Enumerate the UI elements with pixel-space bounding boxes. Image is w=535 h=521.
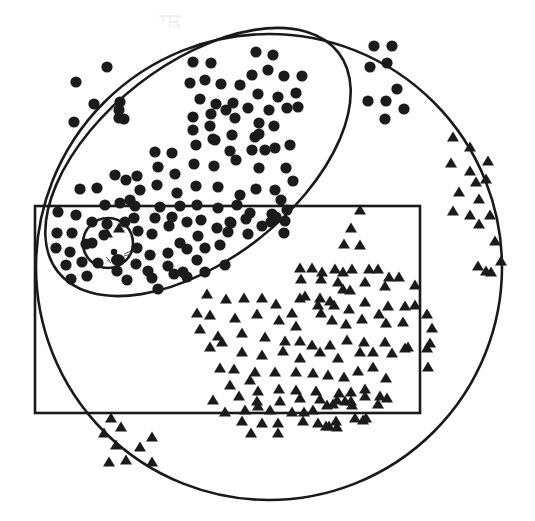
dot-marker xyxy=(290,87,301,98)
dot-marker xyxy=(212,202,223,213)
dot-marker xyxy=(66,227,77,238)
triangle-marker xyxy=(367,347,379,357)
dot-marker xyxy=(121,274,132,285)
dot-markers xyxy=(50,40,409,294)
triangle-marker xyxy=(245,428,257,438)
triangle-marker xyxy=(249,367,261,377)
dot-marker xyxy=(281,204,292,215)
triangle-marker xyxy=(453,187,465,197)
dot-marker xyxy=(253,162,264,173)
triangle-marker xyxy=(306,263,318,273)
dot-marker xyxy=(171,187,182,198)
dot-marker xyxy=(214,239,225,250)
triangle-marker xyxy=(382,301,394,311)
triangle-marker xyxy=(464,166,476,176)
triangle-marker xyxy=(326,315,338,325)
dot-marker xyxy=(131,170,142,181)
dot-marker xyxy=(230,154,241,165)
triangle-marker xyxy=(269,367,281,377)
triangle-marker xyxy=(386,348,398,358)
dot-marker xyxy=(259,144,270,155)
triangle-marker xyxy=(252,386,264,396)
dot-marker xyxy=(391,83,402,94)
dot-marker xyxy=(80,238,91,249)
triangle-marker xyxy=(191,308,203,318)
dot-marker xyxy=(234,79,245,90)
triangle-marker xyxy=(473,219,485,229)
triangle-marker xyxy=(345,387,357,397)
triangle-marker xyxy=(338,239,350,249)
dot-marker xyxy=(174,200,185,211)
triangle-marker xyxy=(115,422,127,432)
dot-marker xyxy=(269,184,280,195)
dot-marker xyxy=(111,265,122,276)
triangle-marker xyxy=(346,264,358,274)
triangle-marker xyxy=(297,416,309,426)
triangle-marker xyxy=(397,317,409,327)
venn-scatter-diagram xyxy=(0,0,535,521)
dot-marker xyxy=(149,146,160,157)
triangle-marker xyxy=(399,301,411,311)
triangle-marker xyxy=(359,277,371,287)
dot-marker xyxy=(146,228,157,239)
triangle-marker xyxy=(201,289,213,299)
dot-marker xyxy=(76,256,87,267)
triangle-marker xyxy=(294,263,306,273)
dot-marker xyxy=(181,216,192,227)
triangle-marker xyxy=(354,240,366,250)
triangle-marker xyxy=(372,264,384,274)
dot-marker xyxy=(146,272,157,283)
triangle-marker xyxy=(146,457,158,467)
dot-marker xyxy=(192,230,203,241)
triangle-marker xyxy=(256,350,268,360)
dot-marker xyxy=(124,194,135,205)
dot-marker xyxy=(284,139,295,150)
triangle-marker xyxy=(495,256,507,266)
triangle-marker xyxy=(219,407,231,417)
triangle-marker xyxy=(393,272,405,282)
triangle-marker xyxy=(264,405,276,415)
triangle-marker xyxy=(343,304,355,314)
triangle-marker xyxy=(345,223,357,233)
dot-marker xyxy=(220,104,231,115)
triangle-marker xyxy=(358,337,370,347)
triangle-marker xyxy=(273,384,285,394)
dot-marker xyxy=(181,271,192,282)
dot-marker xyxy=(362,95,373,106)
dot-marker xyxy=(267,49,278,60)
dot-marker xyxy=(253,117,264,128)
triangle-marker xyxy=(340,319,352,329)
dot-marker xyxy=(280,162,291,173)
dot-marker xyxy=(386,40,397,51)
dot-marker xyxy=(181,243,192,254)
dot-marker xyxy=(65,273,76,284)
triangle-marker xyxy=(103,457,115,467)
dot-marker xyxy=(210,98,221,109)
triangle-marker xyxy=(274,396,286,406)
triangle-marker xyxy=(472,261,484,271)
dot-marker xyxy=(194,93,205,104)
triangle-marker xyxy=(316,267,328,277)
dot-marker xyxy=(242,102,253,113)
dot-marker xyxy=(270,211,281,222)
triangle-marker xyxy=(286,407,298,417)
triangle-marker xyxy=(356,314,368,324)
triangle-marker xyxy=(482,156,494,166)
dot-marker xyxy=(144,249,155,260)
triangle-marker xyxy=(220,294,232,304)
dot-marker xyxy=(51,227,62,238)
dot-marker xyxy=(86,216,97,227)
triangle-marker xyxy=(259,332,271,342)
dot-marker xyxy=(250,183,261,194)
triangle-marker xyxy=(295,274,307,284)
dot-marker xyxy=(166,147,177,158)
dot-marker xyxy=(169,168,180,179)
dot-marker xyxy=(199,74,210,85)
dot-marker xyxy=(91,182,102,193)
triangle-marker xyxy=(294,336,306,346)
triangle-marker xyxy=(367,362,379,372)
triangle-marker xyxy=(110,440,122,450)
dot-marker xyxy=(272,91,283,102)
dot-marker xyxy=(114,197,125,208)
dot-marker xyxy=(152,283,163,294)
